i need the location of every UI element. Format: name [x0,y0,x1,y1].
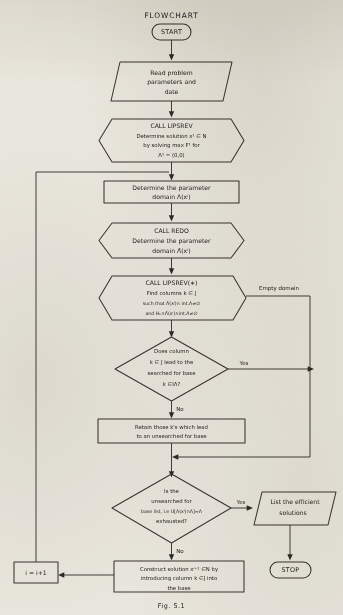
call-redo-line-2: Determine the parameter [132,237,211,245]
call-lipsrev-text: CALL LIPSREV Determine solution x¹ ∈ N b… [136,122,206,158]
retain-line-2: to an unsearched for base [136,433,206,439]
decision-exhausted-line-2: unsearched for [151,498,192,504]
list-efficient-line-1: List the efficient [270,498,320,505]
arrowhead-read [169,54,174,60]
determine-domain-text: Determine the parameter domain Λ(xⁱ) [132,184,211,200]
retain-text: Retain those k's which lead to an unsear… [135,424,208,440]
read-input-line-1: Read problem [150,69,193,77]
construct-line-3: the base [167,585,190,591]
arrowhead-lipsrev [169,111,174,117]
arrowhead-retain [169,412,174,418]
call-redo-text: CALL REDO Determine the parameter domain… [132,227,211,254]
determine-domain-line-2: domain Λ(xⁱ) [152,193,190,200]
arrowhead-lipsrevstar [169,268,174,274]
shapes [14,24,336,592]
edge-label-yes-column: Yes [239,360,249,366]
arrowhead-construct [169,554,174,560]
call-lipsrev-line-4: Λ¹ = (0,0) [158,152,184,158]
decision-column-text: Does column k ∈ J lead to the searched f… [148,348,196,387]
arrowhead-right-bus-return [172,454,178,459]
arrowhead-list-efficient [247,505,253,510]
construct-line-2: introducing column k ∈J into [141,575,217,582]
figure-caption: Fig. 5.1 [158,602,185,610]
decision-column-line-2: k ∈ J lead to the [150,359,193,366]
edge-label-yes-exhausted: Yes [236,499,246,505]
decision-exhausted-text: Is the unsearched for base list, i.e U[Λ… [141,488,203,524]
call-redo-line-3: domain Λ̄(xⁱ) [152,247,190,254]
list-efficient-text: List the efficient solutions [270,498,320,516]
page-title: FLOWCHART [144,11,198,20]
read-input-line-3: date [165,88,179,95]
flowchart-diagram: FLOWCHART START Read problem parameters … [0,0,343,615]
decision-column-line-4: k ∈IΛ? [163,381,181,387]
read-input-text: Read problem parameters and date [147,69,196,95]
edge-label-no-column: No [176,406,184,412]
connectors [36,40,314,578]
retain-line-1: Retain those k's which lead [135,424,208,430]
arrowhead-increment [58,572,64,577]
call-lipsrev-star-line-1: CALL LIPSREV(∗) [146,279,198,286]
connector-feedback-loop [36,172,169,562]
list-efficient-line-2: solutions [279,509,306,516]
call-redo-line-1: CALL REDO [154,227,189,234]
call-lipsrev-star-line-3: such that Λ̄(xⁱ)∩ int.Λ≠∅ [143,301,201,306]
increment-label: i = i+1 [25,569,46,576]
decision-column-shape [115,337,228,401]
determine-domain-line-1: Determine the parameter [132,184,211,192]
call-lipsrev-line-2: Determine solution x¹ ∈ N [136,133,206,139]
start-label: START [161,28,182,36]
stop-label: STOP [281,566,299,574]
decision-exhausted-line-3: base list, i.e U[Λ(xⁱ)∩Λ]=Λ [141,509,203,514]
call-lipsrev-line-1: CALL LIPSREV [150,122,193,129]
decision-column-line-1: Does column [154,348,189,354]
arrowhead-redo [169,215,174,221]
decision-exhausted-line-1: Is the [164,488,179,494]
call-lipsrev-star-line-4: and Hₖ∩Λ̄(xⁱ)∩int.Λ≠∅ [146,311,198,316]
construct-text: Construct solution xⁱ⁺¹ ∈N by introducin… [140,566,218,591]
edge-label-empty-domain: Empty domain [259,285,300,292]
decision-exhausted-line-4: exhausted? [156,518,187,524]
edge-label-no-exhausted: No [176,548,184,554]
arrowhead-yes-column [308,366,314,371]
call-lipsrev-line-3: by solving max F¹ for [143,142,200,149]
read-input-line-2: parameters and [147,78,196,86]
call-lipsrev-star-line-2: Find columns k ∈ J [147,290,197,297]
construct-line-1: Construct solution xⁱ⁺¹ ∈N by [140,566,218,573]
connector-empty-domain [246,296,310,430]
arrowhead-stop [287,554,292,560]
decision-column-line-3: searched for base [148,370,196,376]
arrowhead-domain [169,174,174,180]
call-lipsrev-star-text: CALL LIPSREV(∗) Find columns k ∈ J such … [143,279,201,316]
